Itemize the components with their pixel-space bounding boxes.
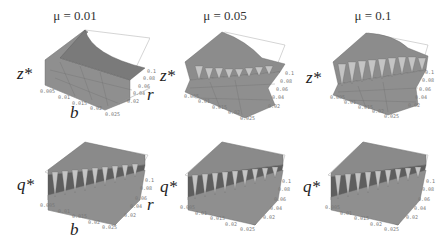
plot-z-mu-0-1: μ = 0.1 z* 0.005 0.01 0.015 0.02 0.025 0… xyxy=(298,0,448,125)
tick: 0.02 xyxy=(90,105,102,111)
tick: 0.015 xyxy=(354,215,369,221)
tick: 0.015 xyxy=(358,104,373,110)
tick: 0.025 xyxy=(384,226,399,232)
tick: 0.02 xyxy=(263,214,275,220)
tick: 0.01 xyxy=(344,99,356,105)
tick: 0.015 xyxy=(210,215,225,221)
tick: 0.015 xyxy=(72,100,87,106)
tick: 0.025 xyxy=(105,111,120,117)
q-axis-label: q* xyxy=(303,177,320,197)
tick: 0.1 xyxy=(285,70,294,76)
plot-z-mu-0-01: μ = 0.01 z* r b 0.005 0.01 0.015 0.02 0.… xyxy=(0,0,150,125)
tick: 0.08 xyxy=(278,186,290,192)
q-axis-label: q* xyxy=(160,177,177,197)
tick: 0.025 xyxy=(240,226,255,232)
tick: 0.02 xyxy=(372,108,384,114)
tick: 0.1 xyxy=(282,178,291,184)
z-axis-label: z* xyxy=(306,68,321,88)
tick: 0.005 xyxy=(330,94,345,100)
tick: 0.02 xyxy=(225,221,237,227)
tick: 0.02 xyxy=(228,109,240,115)
tick: 0.02 xyxy=(127,98,139,104)
tick: 0.025 xyxy=(240,115,255,121)
plot-q-mu-0-1: q* 0.005 0.01 0.015 0.02 0.025 0.1 0.08 … xyxy=(298,125,448,250)
tick: 0.015 xyxy=(212,104,227,110)
tick: 0.005 xyxy=(184,93,199,99)
tick: 0.08 xyxy=(280,78,292,84)
tick: 0.015 xyxy=(72,213,87,219)
plot-q-mu-0-05: q* 0.005 0.01 0.015 0.02 0.025 0.1 0.08 … xyxy=(150,125,300,250)
tick: 0.01 xyxy=(198,98,210,104)
tick: 0.08 xyxy=(422,77,434,83)
tick: 0.1 xyxy=(426,178,435,184)
tick: 0.005 xyxy=(40,88,55,94)
b-axis-label: b xyxy=(70,220,79,240)
tick: 0.06 xyxy=(135,195,147,201)
tick: 0.01 xyxy=(58,208,70,214)
tick: 0.04 xyxy=(414,205,426,211)
tick: 0.01 xyxy=(195,210,207,216)
tick: 0.06 xyxy=(276,86,288,92)
tick: 0.04 xyxy=(272,94,284,100)
tick: 0.02 xyxy=(408,102,420,108)
z-axis-label: z* xyxy=(160,66,175,86)
tick: 0.02 xyxy=(406,214,418,220)
tick: 0.02 xyxy=(268,103,280,109)
tick: 0.04 xyxy=(270,205,282,211)
plot-q-mu-0-01: q* r b 0.005 0.01 0.015 0.02 0.025 0.1 0… xyxy=(0,125,150,250)
tick: 0.04 xyxy=(130,203,142,209)
b-axis-label: b xyxy=(70,103,79,123)
tick: 0.06 xyxy=(274,196,286,202)
tick: 0.025 xyxy=(102,224,117,230)
tick: 0.005 xyxy=(325,204,340,210)
tick: 0.02 xyxy=(370,221,382,227)
tick: 0.005 xyxy=(40,202,55,208)
tick: 0.005 xyxy=(180,204,195,210)
tick: 0.01 xyxy=(58,94,70,100)
q-axis-label: q* xyxy=(17,175,34,195)
tick: 0.02 xyxy=(88,219,100,225)
tick: 0.025 xyxy=(384,113,399,119)
tick: 0.06 xyxy=(418,196,430,202)
tick: 0.04 xyxy=(133,90,145,96)
tick: 0.06 xyxy=(138,83,150,89)
tick: 0.1 xyxy=(425,69,434,75)
tick: 0.02 xyxy=(124,212,136,218)
tick: 0.08 xyxy=(422,186,434,192)
z-axis-label: z* xyxy=(17,64,32,84)
tick: 0.06 xyxy=(419,86,431,92)
plot-z-mu-0-05: μ = 0.05 z* 0.005 0.01 0.015 0.02 0.025 … xyxy=(150,0,300,125)
tick: 0.04 xyxy=(415,94,427,100)
tick: 0.01 xyxy=(340,210,352,216)
